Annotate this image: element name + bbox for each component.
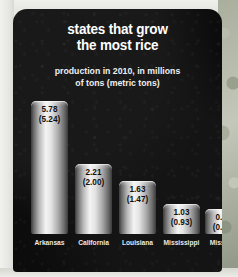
bar-arkansas: 5.78 (5.24) (31, 101, 68, 234)
chart-card: states that grow the most rice productio… (13, 9, 222, 272)
bar-value-metric-mississippi: (0.93) (164, 217, 199, 227)
bar-value-primary-louisiana: 1.63 (130, 184, 146, 194)
x-axis-label-missouri: Missouri (201, 238, 222, 247)
bar-value-primary-california: 2.21 (86, 167, 102, 177)
bar-group-missouri: 0.81 (0.73) Missouri (205, 209, 222, 234)
bar-value-arkansas: 5.78 (5.24) (32, 104, 67, 124)
bar-group-arkansas: 5.78 (5.24) Arkansas (31, 101, 68, 234)
bar-value-mississippi: 1.03 (0.93) (164, 207, 199, 227)
chart-screenshot: states that grow the most rice productio… (0, 0, 238, 277)
background-left-strip (0, 0, 14, 277)
bar-california: 2.21 (2.00) (75, 164, 112, 234)
bar-value-missouri: 0.81 (0.73) (206, 212, 222, 232)
x-axis-label-california: California (71, 238, 117, 247)
bar-plot-area: 5.78 (5.24) Arkansas 2.21 (2.00) Califor… (13, 9, 222, 272)
x-axis-label-arkansas: Arkansas (27, 238, 73, 247)
bar-value-metric-arkansas: (5.24) (32, 114, 67, 124)
x-axis-label-mississippi: Mississippi (159, 238, 205, 247)
bar-value-metric-missouri: (0.73) (206, 222, 222, 232)
bar-value-california: 2.21 (2.00) (76, 167, 111, 187)
bar-value-primary-mississippi: 1.03 (174, 207, 190, 217)
bar-louisiana: 1.63 (1.47) (119, 181, 156, 234)
bar-missouri: 0.81 (0.73) (205, 209, 222, 234)
bar-value-primary-missouri: 0.81 (216, 212, 222, 222)
bar-value-metric-louisiana: (1.47) (120, 194, 155, 204)
bar-value-louisiana: 1.63 (1.47) (120, 184, 155, 204)
bar-group-california: 2.21 (2.00) California (75, 164, 112, 234)
bar-value-metric-california: (2.00) (76, 177, 111, 187)
bar-mississippi: 1.03 (0.93) (163, 204, 200, 234)
x-axis-label-louisiana: Louisiana (115, 238, 161, 247)
bar-group-louisiana: 1.63 (1.47) Louisiana (119, 181, 156, 234)
bar-group-mississippi: 1.03 (0.93) Mississippi (163, 204, 200, 234)
bar-value-primary-arkansas: 5.78 (42, 104, 58, 114)
